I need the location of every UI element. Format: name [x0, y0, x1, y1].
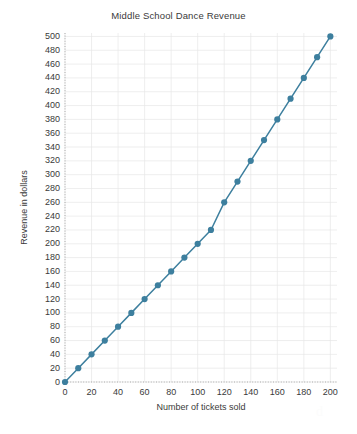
- data-point-marker: [301, 75, 307, 81]
- data-point-marker: [102, 337, 108, 343]
- watermark: d: [316, 404, 323, 420]
- data-point-marker: [155, 282, 161, 288]
- data-point-marker: [62, 379, 68, 385]
- data-point-marker: [88, 351, 94, 357]
- data-point-marker: [234, 178, 240, 184]
- data-point-marker: [75, 365, 81, 371]
- gridlines: [65, 33, 337, 382]
- data-point-marker: [195, 241, 201, 247]
- data-point-marker: [261, 137, 267, 143]
- data-point-marker: [168, 268, 174, 274]
- data-point-marker: [327, 33, 333, 39]
- data-point-marker: [248, 158, 254, 164]
- chart-figure: Middle School Dance Revenue Revenue in d…: [0, 0, 357, 434]
- data-point-marker: [128, 310, 134, 316]
- data-point-marker: [208, 227, 214, 233]
- data-point-marker: [274, 116, 280, 122]
- axis-lines: [65, 33, 337, 382]
- data-point-marker: [221, 199, 227, 205]
- data-point-marker: [181, 255, 187, 261]
- data-point-marker: [142, 296, 148, 302]
- data-point-marker: [314, 54, 320, 60]
- plot-area: [0, 0, 357, 434]
- data-point-marker: [115, 324, 121, 330]
- data-point-marker: [287, 96, 293, 102]
